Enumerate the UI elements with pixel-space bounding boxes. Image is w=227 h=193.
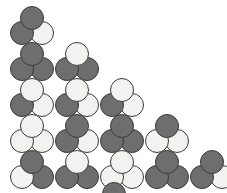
circle-top-dark (65, 114, 89, 138)
circle-top-light (110, 150, 134, 174)
cluster-r3c1 (55, 114, 99, 154)
cluster-r0c0 (10, 6, 54, 46)
cluster-r3c0 (10, 114, 54, 154)
circle-top-dark (200, 150, 224, 174)
circle-top-light (110, 78, 134, 102)
cluster-r2c1 (55, 78, 99, 118)
cluster-r3c2 (100, 114, 144, 154)
circle-top-dark (20, 42, 44, 66)
circle-top-light (20, 78, 44, 102)
circle-top-dark (20, 150, 44, 174)
cluster-r4c0 (10, 150, 54, 190)
circle-top-dark (155, 114, 179, 138)
cluster-r4c3 (145, 150, 189, 190)
circle-top-light (65, 78, 89, 102)
circle-top-dark (110, 114, 134, 138)
circle-top-light (65, 150, 89, 174)
circle-top-light (65, 42, 89, 66)
circle-top-dark (155, 150, 179, 174)
circle-top-light (20, 114, 44, 138)
cluster-r2c2 (100, 78, 144, 118)
circle-top-dark (20, 6, 44, 30)
cluster-r1c0 (10, 42, 54, 82)
cluster-r3c3 (145, 114, 189, 154)
cluster-r2c0 (10, 78, 54, 118)
cluster-r4c1 (55, 150, 99, 190)
cluster-r4c4 (190, 150, 227, 190)
cluster-r1c1 (55, 42, 99, 82)
cluster-diagram (0, 0, 227, 193)
